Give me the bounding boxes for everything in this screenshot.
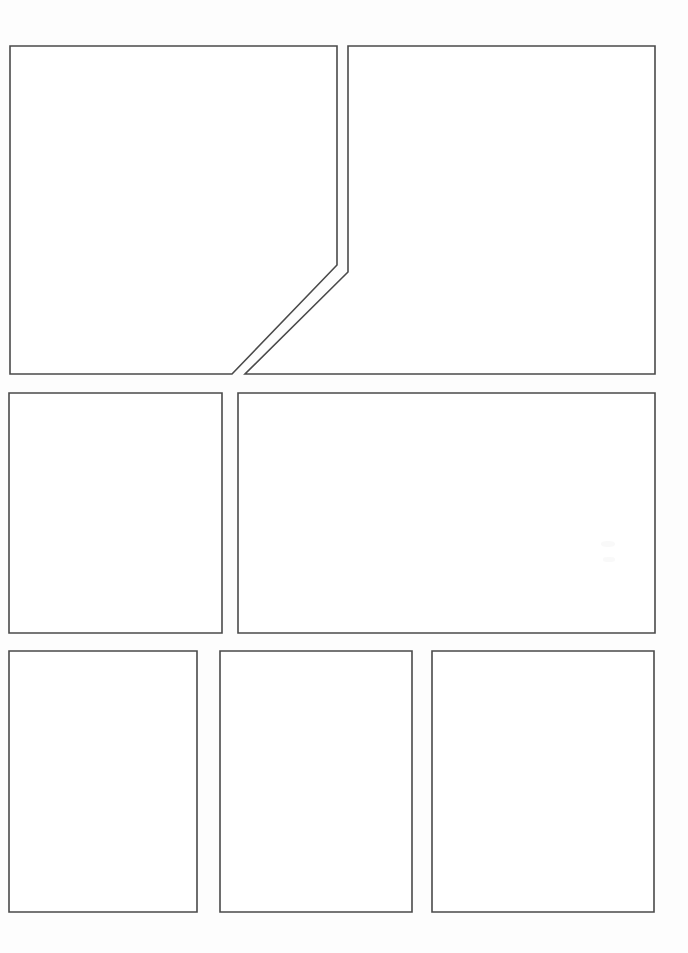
panel-1-area[interactable]	[10, 46, 337, 374]
panel-2-area[interactable]	[348, 46, 655, 374]
manga-page	[0, 0, 688, 953]
panel-6-area[interactable]	[220, 651, 412, 912]
panel-4-area[interactable]	[238, 393, 655, 633]
panel-3-area[interactable]	[9, 393, 222, 633]
panel-5-area[interactable]	[9, 651, 197, 912]
panel-7-area[interactable]	[432, 651, 654, 912]
